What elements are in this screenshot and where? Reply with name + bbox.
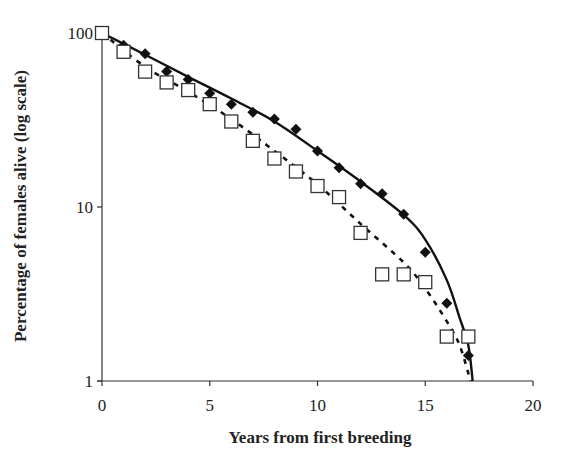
x-tick-label: 20 [525, 396, 542, 415]
square-point [117, 45, 130, 58]
square-point [354, 226, 367, 239]
x-tick-label: 10 [309, 396, 326, 415]
square-point [333, 191, 346, 204]
y-tick-label: 10 [76, 198, 93, 217]
dashed-fit-line [102, 33, 471, 381]
square-point [397, 268, 410, 281]
square-point [311, 180, 324, 193]
square-point [440, 330, 453, 343]
y-axis-title: Percentage of females alive (log scale) [11, 70, 30, 342]
data-points [96, 27, 475, 362]
x-axis-title: Years from first breeding [228, 428, 412, 447]
square-point [289, 165, 302, 178]
square-point [160, 76, 173, 89]
x-tick-label: 0 [98, 396, 107, 415]
square-point [462, 330, 475, 343]
square-point [203, 98, 216, 111]
square-point [268, 152, 281, 165]
square-point [419, 276, 432, 289]
fit-curves [102, 33, 473, 381]
y-tick-label: 1 [85, 372, 94, 391]
diamond-point [441, 298, 452, 309]
survival-chart: 05101520110100 Years from first breeding… [0, 0, 570, 467]
diamond-point [377, 188, 388, 199]
diamond-point [420, 247, 431, 258]
y-tick-label: 100 [68, 24, 94, 43]
square-point [139, 65, 152, 78]
square-point [376, 268, 389, 281]
solid-fit-line [102, 33, 473, 381]
square-point [96, 27, 109, 40]
x-tick-label: 5 [206, 396, 215, 415]
square-point [246, 134, 259, 147]
x-tick-label: 15 [417, 396, 434, 415]
square-point [182, 84, 195, 97]
square-point [225, 115, 238, 128]
